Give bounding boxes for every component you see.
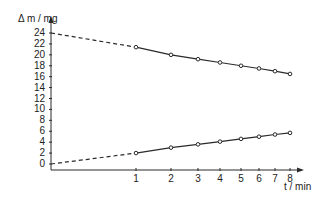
data-point-marker (169, 146, 173, 150)
extrapolation-line (51, 33, 136, 47)
data-point-marker (257, 67, 261, 71)
series-lines (51, 33, 292, 164)
x-tick-label: 2 (165, 174, 177, 184)
y-tick-label: 2 (23, 148, 45, 158)
x-tick-label: 6 (253, 174, 265, 184)
x-tick-label: 7 (269, 174, 281, 184)
y-tick-label: 6 (23, 126, 45, 136)
data-point-marker (218, 140, 222, 144)
y-tick-label: 8 (23, 115, 45, 125)
x-tick-label: 5 (235, 174, 247, 184)
y-tick-label: 0 (23, 159, 45, 169)
y-tick-label: 4 (23, 137, 45, 147)
y-tick-label: 14 (23, 83, 45, 93)
data-point-marker (239, 137, 243, 141)
data-point-marker (257, 135, 261, 139)
series-line-1 (136, 133, 290, 153)
data-point-marker (196, 57, 200, 61)
y-axis-title: Δ m / mg (18, 14, 57, 24)
y-tick-label: 20 (23, 50, 45, 60)
data-point-marker (288, 131, 292, 135)
data-point-marker (273, 69, 277, 73)
data-point-marker (218, 61, 222, 65)
data-point-marker (134, 45, 138, 49)
chart-plot (0, 0, 321, 199)
data-point-marker (196, 143, 200, 147)
x-axis-arrow-icon (297, 168, 304, 173)
y-tick-label: 24 (23, 28, 45, 38)
data-point-marker (288, 72, 292, 76)
x-tick-label: 3 (192, 174, 204, 184)
data-point-marker (273, 133, 277, 137)
series-line-0 (136, 47, 290, 74)
x-axis-title: t / min (284, 182, 311, 192)
x-tick-label: 4 (214, 174, 226, 184)
data-point-marker (134, 151, 138, 155)
y-tick-label: 12 (23, 94, 45, 104)
x-tick-label: 1 (130, 174, 142, 184)
extrapolation-line (51, 153, 136, 164)
y-tick-label: 18 (23, 61, 45, 71)
y-tick-label: 10 (23, 104, 45, 114)
y-tick-label: 16 (23, 72, 45, 82)
data-point-marker (239, 64, 243, 68)
data-point-marker (169, 53, 173, 57)
y-tick-label: 22 (23, 39, 45, 49)
